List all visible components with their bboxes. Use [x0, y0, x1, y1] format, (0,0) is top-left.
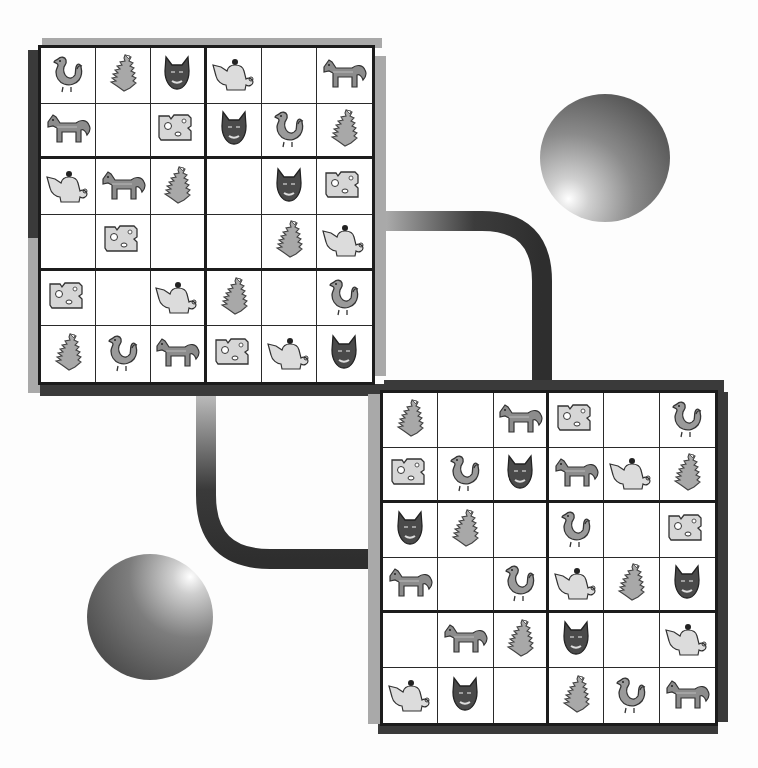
grid-cell-horse[interactable]: [438, 613, 493, 668]
grid-cell-cat[interactable]: [438, 668, 493, 723]
pinecone-icon: [607, 560, 655, 608]
grid-cell-empty[interactable]: [494, 668, 549, 723]
grid-cell-duck[interactable]: [438, 448, 493, 503]
grid-cell-teapot[interactable]: [207, 48, 262, 104]
grid-cell-teapot[interactable]: [151, 271, 206, 327]
grid-cell-teapot[interactable]: [383, 668, 438, 723]
grid-cell-horse[interactable]: [96, 159, 151, 215]
grid-cell-duck[interactable]: [41, 48, 96, 104]
duck-icon: [99, 330, 147, 378]
cat-mask-icon: [496, 450, 544, 498]
grid-cell-empty[interactable]: [96, 104, 151, 160]
grid-cell-cheese[interactable]: [317, 159, 372, 215]
grid-cell-cat[interactable]: [151, 48, 206, 104]
grid-cell-cat[interactable]: [317, 326, 372, 382]
grid-cell-cheese[interactable]: [151, 104, 206, 160]
duck-icon: [44, 51, 92, 99]
grid-cell-horse[interactable]: [494, 393, 549, 448]
grid-cell-duck[interactable]: [604, 668, 659, 723]
grid-cell-teapot[interactable]: [604, 448, 659, 503]
duck-icon: [441, 450, 489, 498]
grid-cell-teapot[interactable]: [549, 558, 604, 613]
grid-cell-cat[interactable]: [549, 613, 604, 668]
teapot-icon: [153, 274, 201, 322]
grid-cell-empty[interactable]: [438, 393, 493, 448]
pinecone-icon: [441, 506, 489, 554]
grid-cell-pinecone[interactable]: [207, 271, 262, 327]
grid-cell-duck[interactable]: [262, 104, 317, 160]
grid-cell-cheese[interactable]: [207, 326, 262, 382]
grid-cell-empty[interactable]: [151, 215, 206, 271]
horse-icon: [99, 163, 147, 211]
grid-cell-duck[interactable]: [494, 558, 549, 613]
grid-cell-cheese[interactable]: [96, 215, 151, 271]
grid-cell-teapot[interactable]: [262, 326, 317, 382]
grid-cell-horse[interactable]: [317, 48, 372, 104]
duck-icon: [496, 560, 544, 608]
grid-cell-empty[interactable]: [262, 271, 317, 327]
grid-cell-cheese[interactable]: [41, 271, 96, 327]
grid-cell-cat[interactable]: [262, 159, 317, 215]
grid-cell-pinecone[interactable]: [494, 613, 549, 668]
pinecone-icon: [663, 450, 711, 498]
grid-cell-horse[interactable]: [660, 668, 715, 723]
cheese-icon: [44, 274, 92, 322]
grid-cell-empty[interactable]: [207, 159, 262, 215]
grid-cell-empty[interactable]: [41, 215, 96, 271]
grid-cell-pinecone[interactable]: [96, 48, 151, 104]
grid-cell-duck[interactable]: [96, 326, 151, 382]
grid-cell-cat[interactable]: [207, 104, 262, 160]
grid-cell-duck[interactable]: [317, 271, 372, 327]
frame-shadow-right: [374, 56, 386, 376]
grid-cell-cheese[interactable]: [383, 448, 438, 503]
cheese-icon: [320, 163, 368, 211]
grid-cell-empty[interactable]: [207, 215, 262, 271]
grid-cell-pinecone[interactable]: [660, 448, 715, 503]
cat-mask-icon: [265, 163, 313, 211]
grid-cell-empty[interactable]: [438, 558, 493, 613]
grid-cell-pinecone[interactable]: [549, 668, 604, 723]
grid-cell-empty[interactable]: [383, 613, 438, 668]
horse-icon: [441, 616, 489, 664]
grid-cell-empty[interactable]: [494, 503, 549, 558]
grid-cell-empty[interactable]: [96, 271, 151, 327]
grid-cell-pinecone[interactable]: [317, 104, 372, 160]
grid-cell-empty[interactable]: [262, 48, 317, 104]
teapot-icon: [44, 163, 92, 211]
grid-cell-cat[interactable]: [383, 503, 438, 558]
board-bottom-right: [368, 380, 730, 738]
grid-cell-pinecone[interactable]: [41, 326, 96, 382]
grid-cell-empty[interactable]: [604, 393, 659, 448]
grid-cell-pinecone[interactable]: [383, 393, 438, 448]
grid-cell-pinecone[interactable]: [262, 215, 317, 271]
grid-cell-pinecone[interactable]: [151, 159, 206, 215]
teapot-icon: [320, 217, 368, 265]
cat-mask-icon: [386, 506, 434, 554]
duck-icon: [265, 106, 313, 154]
sudoku-grid-2: [380, 390, 718, 726]
grid-cell-horse[interactable]: [151, 326, 206, 382]
grid-cell-cheese[interactable]: [660, 503, 715, 558]
grid-cell-horse[interactable]: [383, 558, 438, 613]
grid-cell-cat[interactable]: [660, 558, 715, 613]
grid-cell-duck[interactable]: [660, 393, 715, 448]
grid-cell-duck[interactable]: [549, 503, 604, 558]
pinecone-icon: [99, 51, 147, 99]
grid-cell-empty[interactable]: [604, 503, 659, 558]
grid-cell-empty[interactable]: [604, 613, 659, 668]
cheese-icon: [153, 106, 201, 154]
cat-mask-icon: [663, 560, 711, 608]
grid-cell-horse[interactable]: [549, 448, 604, 503]
grid-cell-teapot[interactable]: [41, 159, 96, 215]
horse-icon: [153, 330, 201, 378]
grid-cell-teapot[interactable]: [660, 613, 715, 668]
grid-cell-pinecone[interactable]: [604, 558, 659, 613]
cheese-icon: [210, 330, 258, 378]
grid-cell-pinecone[interactable]: [438, 503, 493, 558]
grid-cell-horse[interactable]: [41, 104, 96, 160]
grid-cell-teapot[interactable]: [317, 215, 372, 271]
grid-cell-cheese[interactable]: [549, 393, 604, 448]
grid-cell-cat[interactable]: [494, 448, 549, 503]
cat-mask-icon: [153, 51, 201, 99]
sudoku-grid-1: [38, 45, 375, 385]
